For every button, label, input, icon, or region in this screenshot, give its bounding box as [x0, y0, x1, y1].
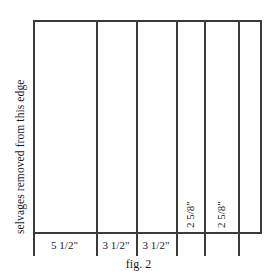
dimension-tick-4: [204, 234, 206, 256]
strip-4-dimension-label: 2 5/8": [182, 201, 198, 228]
selvage-edge-label: selvages removed from this edge: [12, 20, 30, 234]
strip-1-dimension-label: 5 1/2": [33, 236, 96, 254]
strip-5-dimension-label: 2 5/8": [213, 201, 229, 228]
cut-line-5: [238, 20, 240, 234]
strip-2-dimension-label: 3 1/2": [96, 236, 136, 254]
figure-caption: fig. 2: [0, 258, 277, 270]
cut-line-4: [204, 20, 206, 234]
dimension-tick-5: [238, 234, 240, 256]
strip-3-dimension-label: 3 1/2": [136, 236, 176, 254]
cut-line-1: [96, 20, 98, 234]
dimension-tick-3: [176, 234, 178, 256]
cut-line-3: [176, 20, 178, 234]
figure-container: selvages removed from this edge 2 5/8" 2…: [0, 0, 277, 276]
cut-line-2: [136, 20, 138, 234]
